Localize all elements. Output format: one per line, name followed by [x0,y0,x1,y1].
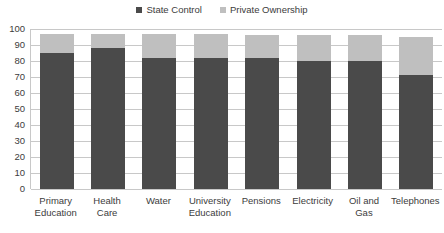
legend-label-private-ownership: Private Ownership [230,5,308,15]
x-tick-label: Primary Education [30,195,81,233]
bar-segment-private-ownership[interactable] [142,34,176,58]
y-tick-label: 0 [20,184,25,194]
bar-stack[interactable] [399,37,433,189]
bar-slot [82,29,133,189]
y-tick-label: 50 [14,104,25,114]
bars-layer [31,29,442,189]
plot-area [30,29,441,189]
legend-swatch-state-control [136,7,142,13]
gridline [31,189,442,190]
bar-segment-private-ownership[interactable] [40,34,74,53]
bar-slot [134,29,185,189]
bar-slot [237,29,288,189]
x-tick-label: Electricity [287,195,338,233]
bar-stack[interactable] [194,34,228,189]
y-tick-label: 90 [14,40,25,50]
x-axis: Primary EducationHealth CareWaterUnivers… [30,195,441,233]
bar-segment-state-control[interactable] [245,58,279,189]
bar-segment-state-control[interactable] [40,53,74,189]
legend-label-state-control: State Control [146,5,201,15]
bar-slot [185,29,236,189]
bar-segment-state-control[interactable] [348,61,382,189]
bar-stack[interactable] [40,34,74,189]
y-tick-label: 70 [14,72,25,82]
bar-stack[interactable] [297,35,331,189]
stacked-bar-chart: State Control Private Ownership 10090807… [0,0,444,233]
bar-slot [339,29,390,189]
legend-entry-state-control: State Control [136,5,201,15]
bar-stack[interactable] [348,35,382,189]
bar-segment-private-ownership[interactable] [91,34,125,48]
x-tick-label: University Education [184,195,235,233]
bar-stack[interactable] [91,34,125,189]
y-tick-label: 30 [14,136,25,146]
bar-slot [288,29,339,189]
bar-stack[interactable] [245,35,279,189]
y-tick-label: 80 [14,56,25,66]
bar-segment-state-control[interactable] [142,58,176,189]
bar-segment-private-ownership[interactable] [399,37,433,75]
y-tick-label: 100 [9,24,25,34]
bar-segment-state-control[interactable] [194,58,228,189]
plot-wrapper: 1009080706050403020100 [0,22,444,194]
bar-segment-private-ownership[interactable] [194,34,228,58]
legend-entry-private-ownership: Private Ownership [220,5,308,15]
bar-slot [391,29,442,189]
x-tick-label: Health Care [81,195,132,233]
bar-segment-state-control[interactable] [91,48,125,189]
bar-segment-state-control[interactable] [399,75,433,189]
bar-segment-state-control[interactable] [297,61,331,189]
bar-segment-private-ownership[interactable] [348,35,382,61]
x-tick-label: Water [133,195,184,233]
bar-stack[interactable] [142,34,176,189]
x-tick-label: Pensions [236,195,287,233]
bar-segment-private-ownership[interactable] [245,35,279,57]
y-tick-label: 20 [14,152,25,162]
y-tick-label: 10 [14,168,25,178]
y-tick-label: 60 [14,88,25,98]
x-tick-label: Oil and Gas [338,195,389,233]
y-axis: 1009080706050403020100 [0,22,28,194]
bar-segment-private-ownership[interactable] [297,35,331,61]
chart-legend: State Control Private Ownership [0,2,444,18]
x-tick-label: Telephones [390,195,441,233]
bar-slot [31,29,82,189]
legend-swatch-private-ownership [220,7,226,13]
y-tick-label: 40 [14,120,25,130]
